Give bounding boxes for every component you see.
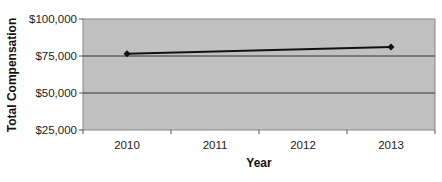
line-chart: $25,000$50,000$75,000$100,000 2010201120… bbox=[0, 0, 442, 182]
y-tick-label: $100,000 bbox=[29, 13, 77, 25]
x-tick-label: 2013 bbox=[378, 139, 404, 151]
x-axis: 2010201120122013 bbox=[83, 130, 435, 151]
y-tick-label: $50,000 bbox=[35, 87, 77, 99]
y-tick-label: $25,000 bbox=[35, 124, 77, 136]
x-axis-title: Year bbox=[246, 156, 272, 170]
y-axis-title: Total Compensation bbox=[5, 18, 19, 132]
plot-area bbox=[83, 19, 435, 130]
y-axis: $25,000$50,000$75,000$100,000 bbox=[29, 13, 83, 136]
x-tick-label: 2012 bbox=[290, 139, 316, 151]
y-tick-label: $75,000 bbox=[35, 50, 77, 62]
x-tick-label: 2011 bbox=[203, 139, 228, 151]
x-tick-label: 2010 bbox=[114, 139, 140, 151]
